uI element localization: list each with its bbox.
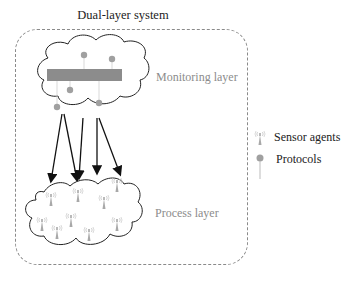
process-layer-cloud	[26, 178, 143, 245]
sensor-antenna-icon	[255, 131, 265, 145]
legend-sensor-agents-label: Sensor agents	[274, 130, 340, 145]
monitoring-layer-cloud	[38, 35, 149, 111]
layer-arrows	[51, 114, 120, 181]
process-layer-label: Process layer	[155, 206, 219, 221]
protocol-pin-icon	[257, 155, 264, 180]
monitoring-layer-label: Monitoring layer	[156, 70, 238, 85]
legend-protocols-label: Protocols	[276, 152, 321, 167]
monitoring-bar	[47, 69, 122, 81]
